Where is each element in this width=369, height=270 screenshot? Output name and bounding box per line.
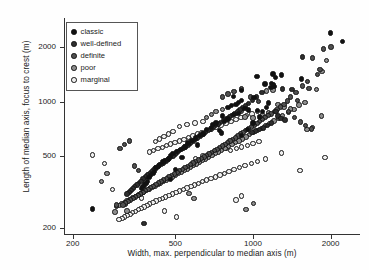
legend-marker-icon — [71, 53, 77, 59]
data-point — [266, 100, 271, 105]
data-point — [231, 94, 236, 99]
data-point — [120, 202, 125, 207]
legend-item-label: marginal — [81, 76, 110, 84]
data-point — [299, 76, 304, 81]
data-point — [170, 129, 175, 134]
data-point — [273, 75, 278, 80]
data-point — [220, 94, 225, 99]
data-point — [104, 171, 109, 176]
data-point — [309, 126, 314, 131]
x-tick-label: 200 — [53, 239, 93, 248]
data-point — [279, 72, 284, 77]
data-point — [292, 115, 297, 120]
legend-item-definite[interactable]: definite — [71, 50, 133, 62]
data-point — [110, 187, 115, 192]
legend-item-classic[interactable]: classic — [71, 26, 133, 38]
legend-item-well-defined[interactable]: well-defined — [71, 38, 133, 50]
data-point — [242, 163, 247, 168]
data-point — [302, 100, 307, 105]
data-point — [249, 161, 254, 166]
data-point — [192, 120, 197, 125]
data-point — [117, 146, 122, 151]
data-point — [233, 117, 238, 122]
data-point — [243, 207, 248, 212]
data-point — [242, 114, 247, 119]
legend: classicwell-defineddefinitepoormarginal — [66, 22, 138, 91]
data-point — [251, 95, 256, 100]
data-point — [186, 191, 191, 196]
data-point — [136, 168, 141, 173]
legend-item-poor[interactable]: poor — [71, 62, 133, 74]
legend-item-label: poor — [81, 64, 96, 72]
data-point — [99, 179, 104, 184]
data-point — [279, 150, 284, 155]
data-point — [237, 165, 242, 170]
data-point — [314, 87, 319, 92]
y-tick-label: 200 — [16, 223, 56, 232]
data-point — [155, 146, 160, 151]
legend-item-marginal[interactable]: marginal — [71, 74, 133, 86]
data-point — [328, 44, 333, 49]
data-point — [239, 88, 244, 93]
data-point — [297, 168, 302, 173]
y-tick-label: 500 — [16, 151, 56, 160]
data-point — [250, 141, 255, 146]
data-point — [306, 86, 311, 91]
data-point — [208, 176, 213, 181]
data-point — [319, 113, 324, 118]
data-point — [328, 30, 333, 35]
data-point — [114, 202, 119, 207]
x-tick-label: 1000 — [233, 239, 273, 248]
data-point — [213, 109, 218, 114]
data-point — [90, 206, 95, 211]
data-point — [234, 146, 239, 151]
data-point — [263, 156, 268, 161]
data-point — [233, 102, 238, 107]
data-point — [177, 124, 182, 129]
data-point — [310, 55, 315, 60]
data-point — [282, 117, 287, 122]
x-axis-label: Width, max. perpendicular to median axis… — [64, 249, 360, 258]
data-point — [127, 138, 132, 143]
legend-item-label: well-defined — [81, 40, 122, 48]
data-point — [296, 102, 301, 107]
data-point — [225, 105, 230, 110]
data-point — [324, 58, 329, 63]
data-point — [116, 217, 121, 222]
data-point — [231, 167, 236, 172]
data-point — [255, 159, 260, 164]
data-point — [174, 214, 179, 219]
x-tick-label: 500 — [155, 239, 195, 248]
legend-item-label: definite — [81, 52, 106, 60]
data-point — [191, 196, 196, 201]
y-tick-label: 1000 — [16, 97, 56, 106]
data-point — [141, 221, 146, 226]
data-point — [209, 112, 214, 117]
data-point — [300, 83, 305, 88]
data-point — [147, 149, 152, 154]
data-point — [268, 85, 273, 90]
legend-item-label: classic — [81, 28, 104, 36]
data-point — [251, 201, 256, 206]
data-point — [250, 120, 255, 125]
data-point — [225, 91, 230, 96]
data-point — [280, 86, 285, 91]
x-axis-line — [64, 234, 360, 235]
scatter-plot-figure: Length of median axis, focus to crest (m… — [0, 0, 369, 270]
data-point — [300, 54, 305, 59]
data-point — [321, 46, 326, 51]
y-tick-label: 2000 — [16, 42, 56, 51]
legend-marker-icon — [71, 41, 77, 47]
data-point — [289, 87, 294, 92]
data-point — [305, 79, 310, 84]
data-point — [195, 142, 200, 147]
legend-marker-icon — [71, 29, 77, 35]
data-point — [168, 177, 173, 182]
data-point — [262, 81, 267, 86]
data-point — [112, 209, 117, 214]
data-point — [322, 155, 327, 160]
x-tick-label: 2000 — [311, 239, 351, 248]
data-point — [162, 208, 167, 213]
data-point — [124, 208, 129, 213]
data-point — [219, 130, 224, 135]
